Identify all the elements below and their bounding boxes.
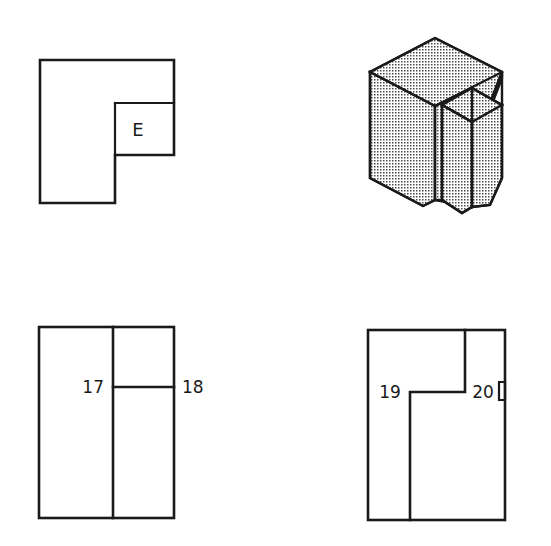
label-surface-e: E (132, 119, 143, 140)
bl-outer-rectangle (39, 327, 174, 518)
figure-bottom-left: 17 18 (0, 300, 230, 546)
figure-top-right-isometric (350, 10, 540, 235)
iso-right-face (472, 105, 502, 207)
figure-bottom-right: 19 20 (345, 300, 551, 546)
br-step-line (410, 330, 465, 520)
l-shape-outline (40, 60, 174, 203)
bottom-right-drawing: 19 20 (345, 300, 551, 546)
bottom-left-drawing: 17 18 (0, 300, 230, 546)
br-outer-rectangle (368, 330, 505, 520)
top-left-drawing: E (0, 0, 230, 240)
label-surface-20: 20 (472, 382, 494, 402)
iso-front-right-face (442, 105, 472, 213)
drawing-sheet: E (0, 0, 551, 546)
figure-top-left: E (0, 0, 230, 240)
label-surface-17: 17 (82, 377, 104, 397)
label-surface-19: 19 (379, 382, 401, 402)
label-surface-18: 18 (182, 377, 204, 397)
br-right-edge-notch-marker (499, 382, 505, 400)
isometric-drawing (350, 10, 540, 235)
